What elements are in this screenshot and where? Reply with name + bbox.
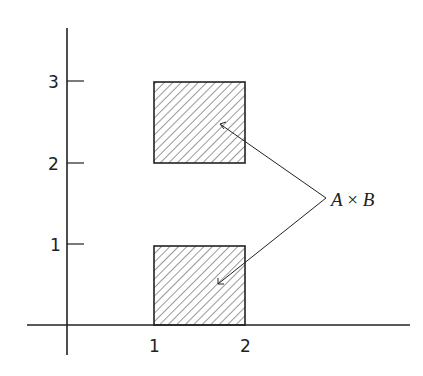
cartesian-product-diagram: 3 2 1 1 2 A × B: [0, 0, 423, 376]
upper-square: [154, 82, 245, 163]
set-b-label: B: [363, 189, 375, 210]
times-symbol: ×: [343, 189, 363, 210]
y-ticks: 3 2 1: [48, 72, 84, 255]
product-label: A × B: [329, 189, 375, 210]
set-a-label: A: [329, 189, 343, 210]
y-tick-label-2: 2: [48, 154, 59, 174]
y-tick-label-1: 1: [50, 235, 61, 255]
y-tick-label-3: 3: [48, 72, 59, 92]
lower-square: [154, 246, 245, 325]
x-tick-label-2: 2: [240, 336, 251, 356]
x-tick-label-1: 1: [149, 336, 160, 356]
